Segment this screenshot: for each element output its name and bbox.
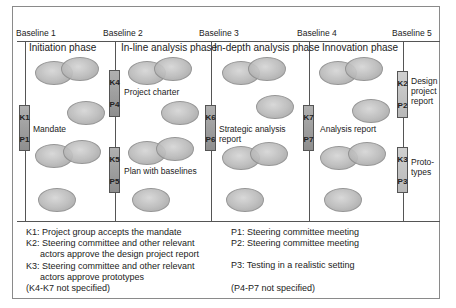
baseline-3-label: Baseline 3 [199, 28, 239, 38]
legend-k4-k7: (K4-K7 not specified) [26, 283, 199, 294]
activity-ellipse [324, 188, 362, 212]
gate-p-label: P4 [110, 100, 120, 109]
gate-p-label: P6 [206, 135, 216, 144]
activity-ellipse [156, 137, 194, 161]
gate-p-label: P3 [398, 177, 408, 186]
legend-p: P1: Steering committee meeting P2: Steer… [231, 227, 359, 294]
bottom-timeline-line [17, 221, 440, 222]
activity-ellipse [154, 57, 192, 81]
gate-k-label: K6 [205, 113, 215, 122]
deliverable-analysis-report: Analysis report [320, 124, 376, 134]
gate-k2-p2: K2 P2 [397, 71, 408, 118]
phase-innovation-label: Innovation phase [322, 42, 398, 53]
legend-p3: P3: Testing in a realistic setting [231, 260, 359, 271]
gate-k5-p5: K5 P5 [109, 147, 120, 193]
gate-k3-p3: K3 P3 [397, 147, 408, 193]
gate-k-label: K2 [397, 79, 407, 88]
gate-k-label: K3 [397, 155, 407, 164]
baseline-4-label: Baseline 4 [297, 28, 337, 38]
legend-k2: K2: Steering committee and other relevan… [26, 238, 199, 249]
gate-k-label: K4 [109, 78, 119, 87]
activity-ellipse [38, 188, 76, 212]
activity-ellipse [132, 188, 170, 212]
gate-k-label: K5 [109, 155, 119, 164]
activity-ellipse [352, 99, 390, 123]
gate-k6-p6: K6 P6 [205, 105, 216, 151]
legend-p1: P1: Steering committee meeting [231, 227, 359, 238]
deliverable-design-project-report: Design project report [411, 76, 437, 106]
deliverable-strategic-analysis-report: Strategic analysis report [219, 124, 286, 144]
deliverable-plan-with-baselines: Plan with baselines [124, 166, 197, 176]
activity-ellipse [348, 142, 386, 166]
legend-k2-cont: actors approve the design project report [26, 249, 199, 260]
baseline-5-line [403, 41, 404, 221]
deliverable-project-charter: Project charter [124, 87, 179, 97]
legend-k3-cont: actors approve prototypes [26, 272, 199, 283]
legend-k: K1: Project group accepts the mandate K2… [26, 227, 199, 294]
activity-ellipse [345, 57, 383, 81]
deliverable-mandate: Mandate [33, 124, 66, 134]
gate-p-label: P5 [110, 177, 120, 186]
baseline-1-label: Baseline 1 [16, 28, 56, 38]
gate-k1-p1: K1 P1 [19, 105, 30, 151]
gate-p-label: P7 [304, 135, 314, 144]
activity-ellipse [161, 101, 199, 125]
activity-ellipse [61, 57, 99, 81]
activity-ellipse [256, 95, 294, 119]
gate-k7-p7: K7 P7 [303, 105, 314, 151]
gate-p-label: P2 [398, 101, 408, 110]
legend-k3: K3: Steering committee and other relevan… [26, 261, 199, 272]
phase-inline-analysis-label: In-line analysis phase [121, 42, 217, 53]
phase-initiation-label: Initiation phase [29, 42, 96, 53]
gate-k-label: K1 [19, 113, 29, 122]
activity-ellipse [248, 57, 286, 81]
gate-k4-p4: K4 P4 [109, 70, 120, 117]
baseline-2-label: Baseline 2 [103, 28, 143, 38]
baseline-5-label: Baseline 5 [392, 28, 432, 38]
legend-p2: P2: Steering committee meeting [231, 238, 359, 249]
deliverable-prototypes: Proto- types [411, 157, 434, 177]
gate-p-label: P1 [20, 135, 30, 144]
activity-ellipse [63, 140, 101, 164]
activity-ellipse [250, 142, 288, 166]
gate-k-label: K7 [303, 113, 313, 122]
legend-p4-p7: (P4-P7 not specified) [231, 283, 359, 294]
phase-indepth-analysis-label: In-depth analysis phase [214, 42, 320, 53]
baseline-2-line [115, 41, 116, 221]
activity-ellipse [67, 101, 105, 125]
legend-k1: K1: Project group accepts the mandate [26, 227, 199, 238]
activity-ellipse [226, 188, 264, 212]
